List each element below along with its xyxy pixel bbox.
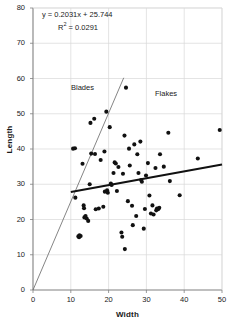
- plot-canvas: [0, 0, 239, 324]
- x-axis-title: Width: [33, 310, 222, 319]
- annotation-flakes: Flakes: [155, 89, 177, 98]
- scatter-chart: y = 0.2031x + 25.744 R2 = 0.0291 Blades …: [0, 0, 239, 324]
- y-tick-label: 40: [5, 145, 25, 153]
- x-tick-label: 0: [23, 296, 43, 304]
- y-tick-label: 20: [5, 216, 25, 224]
- x-tick-label: 50: [212, 296, 232, 304]
- y-tick-label: 70: [5, 39, 25, 47]
- y-tick-label: 80: [5, 4, 25, 12]
- y-axis-title: Length: [5, 115, 14, 165]
- r-squared-value: R2 = 0.0291: [42, 20, 112, 33]
- regression-equation: y = 0.2031x + 25.744: [42, 9, 112, 20]
- y-tick-label: 10: [5, 251, 25, 259]
- y-tick-label: 30: [5, 180, 25, 188]
- x-tick-label: 10: [61, 296, 81, 304]
- equation-annotation: y = 0.2031x + 25.744 R2 = 0.0291: [42, 9, 112, 33]
- annotation-blades: Blades: [71, 83, 94, 92]
- y-tick-label: 50: [5, 110, 25, 118]
- y-tick-label: 60: [5, 75, 25, 83]
- r-rest: = 0.0291: [66, 23, 98, 32]
- x-tick-label: 30: [136, 296, 156, 304]
- x-tick-label: 20: [99, 296, 119, 304]
- y-tick-label: 0: [5, 286, 25, 294]
- x-tick-label: 40: [174, 296, 194, 304]
